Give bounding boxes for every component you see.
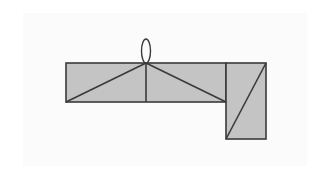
diagram-canvas	[0, 0, 324, 180]
loop-ellipse	[142, 39, 151, 63]
geometric-figure	[0, 0, 324, 180]
